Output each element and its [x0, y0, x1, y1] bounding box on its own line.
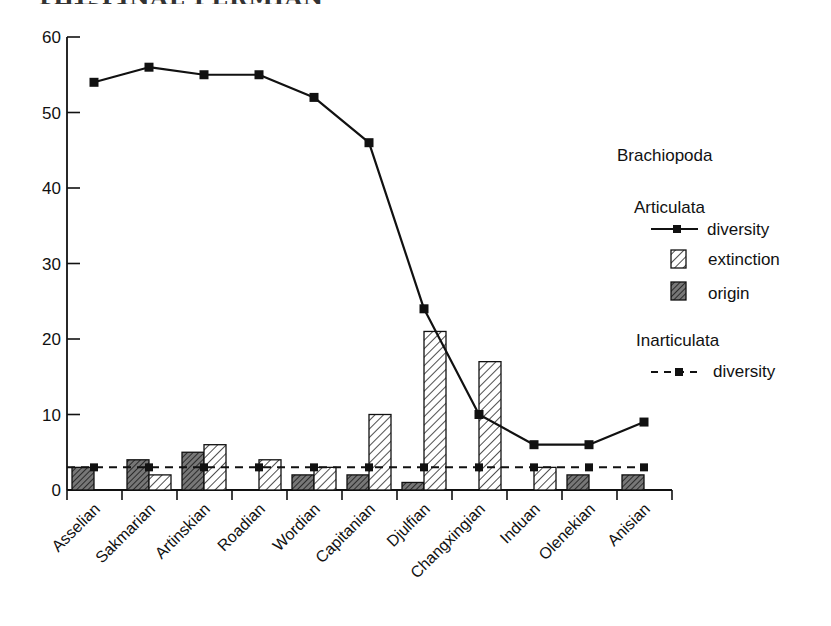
- y-tick-label: 30: [42, 255, 61, 274]
- marker-inarticulata: [255, 463, 263, 471]
- legend-line-solid-icon: [651, 225, 698, 233]
- y-tick-label: 10: [42, 406, 61, 425]
- x-axis-labels: AsselianSakmarianArtinskianRoadianWordia…: [48, 500, 653, 581]
- marker-articulata: [585, 440, 594, 449]
- legend-item-diversity: diversity: [707, 220, 770, 239]
- bar-extinction: [369, 415, 391, 491]
- legend-group-articulata: Articulata: [634, 198, 705, 217]
- marker-articulata: [365, 138, 374, 147]
- x-category-label: Djulfian: [383, 500, 433, 550]
- y-tick-label: 20: [42, 330, 61, 349]
- marker-inarticulata: [365, 463, 373, 471]
- brachiopoda-chart: 0102030405060 AsselianSakmarianArtinskia…: [0, 0, 831, 626]
- marker-articulata: [640, 418, 649, 427]
- marker-articulata: [475, 410, 484, 419]
- marker-articulata: [420, 304, 429, 313]
- marker-inarticulata: [530, 463, 538, 471]
- marker-articulata: [255, 70, 264, 79]
- legend: Brachiopoda Articulata diversity extinct…: [617, 146, 780, 381]
- marker-inarticulata: [475, 463, 483, 471]
- y-tick-label: 0: [52, 481, 61, 500]
- marker-inarticulata: [420, 463, 428, 471]
- line-articulata-diversity: [94, 67, 644, 445]
- x-category-label: Sakmarian: [92, 500, 158, 566]
- axes: 0102030405060: [42, 28, 672, 500]
- x-category-label: Asselian: [48, 500, 103, 555]
- series-lines: [67, 63, 649, 472]
- x-category-label: Wordian: [269, 500, 323, 554]
- x-category-label: Anisian: [604, 500, 653, 549]
- legend-item-origin: origin: [708, 284, 750, 303]
- x-category-label: Capitanian: [312, 500, 378, 566]
- x-category-label: Olenekian: [535, 500, 598, 563]
- y-tick-label: 50: [42, 104, 61, 123]
- legend-hatch-dark-icon: [671, 282, 686, 300]
- x-category-label: Induan: [497, 500, 544, 547]
- x-category-label: Artinskian: [152, 500, 214, 562]
- marker-articulata: [90, 78, 99, 87]
- marker-articulata: [200, 70, 209, 79]
- marker-inarticulata: [585, 463, 593, 471]
- y-tick-label: 60: [42, 28, 61, 47]
- legend-title: Brachiopoda: [617, 146, 713, 165]
- marker-inarticulata: [145, 463, 153, 471]
- bar-origin: [622, 475, 644, 490]
- bar-origin: [402, 482, 424, 490]
- bar-extinction: [149, 475, 171, 490]
- marker-articulata: [530, 440, 539, 449]
- legend-item-extinction: extinction: [708, 250, 780, 269]
- legend-line-dashed-icon: [651, 368, 699, 376]
- bars: [72, 331, 644, 490]
- marker-inarticulata: [640, 463, 648, 471]
- x-category-label: Roadian: [214, 500, 268, 554]
- y-tick-label: 40: [42, 179, 61, 198]
- marker-articulata: [145, 63, 154, 72]
- legend-item-inarticulata-diversity: diversity: [713, 362, 776, 381]
- marker-inarticulata: [200, 463, 208, 471]
- legend-group-inarticulata: Inarticulata: [636, 331, 720, 350]
- marker-inarticulata: [90, 463, 98, 471]
- bar-origin: [347, 475, 369, 490]
- legend-hatch-light-icon: [671, 250, 686, 268]
- bar-origin: [292, 475, 314, 490]
- marker-inarticulata: [310, 463, 318, 471]
- bar-origin: [567, 475, 589, 490]
- marker-articulata: [310, 93, 319, 102]
